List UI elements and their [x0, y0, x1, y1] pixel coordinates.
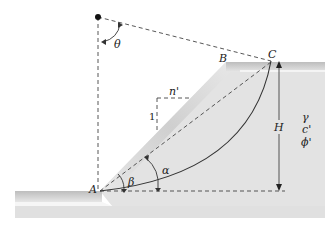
- label-alpha: α: [162, 164, 170, 177]
- label-point-c: C: [268, 48, 277, 61]
- label-theta: θ: [114, 38, 121, 51]
- label-slope-vertical: 1: [149, 111, 155, 122]
- radius-line-center-to-c: [98, 17, 271, 61]
- label-cohesion: c': [302, 123, 311, 136]
- label-beta: β: [127, 176, 134, 189]
- label-slope-horizontal: n': [169, 85, 179, 98]
- circle-center-point: [95, 14, 101, 20]
- label-point-a: A: [88, 183, 97, 196]
- slope-diagram: θ B C n' 1 H γ c' ϕ' A β α: [0, 0, 336, 233]
- label-point-b: B: [218, 52, 227, 65]
- label-friction-angle: ϕ': [301, 136, 312, 149]
- theta-arrowhead-bottom: [101, 39, 106, 45]
- label-height: H: [273, 121, 284, 134]
